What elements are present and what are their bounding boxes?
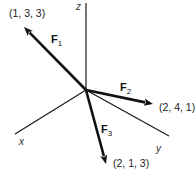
vector-f3-coords: (2, 1, 3): [113, 157, 149, 169]
vector-f2-label: F2: [120, 81, 132, 96]
y-axis: [86, 90, 169, 136]
y-axis-label: y: [155, 143, 162, 154]
z-axis-label: z: [75, 1, 81, 12]
x-axis: [15, 90, 86, 134]
vector-f1-coords: (1, 3, 3): [9, 7, 45, 19]
vector-f2-coords: (2, 4, 1): [159, 101, 195, 113]
vector-f2-shaft: [86, 90, 145, 102]
x-axis-label: x: [18, 136, 25, 147]
force-vector-diagram: z x y F1 F2 F3 (1, 3, 3) (2, 4, 1) (2, 1…: [0, 0, 196, 177]
vector-f1-label: F1: [51, 33, 63, 48]
vector-f3-label: F3: [101, 123, 113, 138]
